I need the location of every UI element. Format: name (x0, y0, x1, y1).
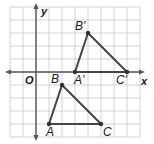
x-axis-arrow-icon (139, 70, 145, 75)
vertex-label: A' (73, 73, 85, 87)
vertex-label: C (103, 125, 112, 139)
y-axis-label: y (40, 5, 48, 17)
y-axis-arrow-down-icon (34, 135, 39, 141)
vertex-label: B (51, 72, 59, 86)
y-axis-arrow-icon (34, 3, 39, 9)
vertex-point (86, 31, 90, 35)
origin-label: O (25, 74, 34, 86)
coordinate-plane: yxOABCA'B'C' (0, 0, 154, 144)
vertex-label: B' (75, 19, 86, 33)
vertex-label: A (45, 125, 54, 139)
x-axis-arrow-left-icon (5, 70, 11, 75)
vertex-point (60, 83, 64, 87)
x-axis-label: x (140, 75, 148, 87)
vertex-label: C' (116, 73, 128, 87)
